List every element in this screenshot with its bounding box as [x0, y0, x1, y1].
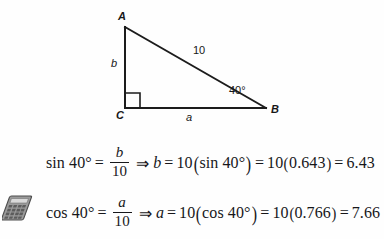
eq-sin-lhs: sin 40° [46, 154, 92, 172]
eq-cos-equals-1: = [97, 204, 106, 222]
equation-sin: sin 40° = b 10 ⇒ b = 10 ( sin 40° ) = 10… [46, 146, 375, 181]
eq-sin-paren-close-1: ) [246, 155, 251, 173]
eq-cos-variable: a [156, 204, 164, 222]
equation-cos: cos 40° = a 10 ⇒ a = 10 ( cos 40° ) = 10… [46, 196, 380, 231]
eq-cos-equals-3: = [260, 204, 269, 222]
vertex-label-b: B [271, 104, 279, 115]
eq-cos-paren-open-1: ( [196, 205, 201, 223]
eq-cos-denominator: 10 [113, 214, 132, 230]
vertex-label-c: C [116, 110, 124, 121]
eq-cos-lhs: cos 40° [46, 204, 94, 222]
eq-sin-paren-open-1: ( [193, 155, 198, 173]
eq-cos-paren-close-1: ) [251, 205, 256, 223]
vertex-label-a: A [118, 11, 126, 22]
eq-sin-result: 6.43 [346, 154, 374, 172]
eq-sin-multiplier-2: 10 [267, 154, 283, 172]
side-label-a: a [186, 112, 192, 123]
eq-cos-ratio-value: 0.766 [294, 204, 331, 222]
eq-cos-numerator: a [115, 195, 129, 211]
eq-sin-paren-close-2: ) [326, 156, 331, 171]
eq-sin-fraction: b 10 [110, 145, 129, 180]
eq-cos-equals-2: = [167, 204, 176, 222]
side-label-hypotenuse: 10 [193, 45, 205, 56]
triangle-figure: A B C b a 10 40° [0, 0, 384, 135]
eq-sin-variable: b [153, 154, 161, 172]
eq-cos-fraction: a 10 [113, 195, 132, 230]
eq-cos-paren-close-2: ) [331, 206, 336, 221]
eq-cos-multiplier-1: 10 [179, 204, 195, 222]
eq-cos-paren-open-2: ( [289, 206, 294, 221]
right-angle-marker-icon [125, 93, 140, 108]
calculator-icon [2, 193, 36, 223]
eq-cos-inner-expression: cos 40° [202, 204, 250, 222]
eq-cos-multiplier-2: 10 [272, 204, 288, 222]
side-label-b: b [111, 58, 117, 69]
eq-cos-result: 7.66 [352, 204, 380, 222]
eq-sin-equals-1: = [95, 154, 104, 172]
eq-sin-paren-open-2: ( [284, 156, 289, 171]
eq-cos-implies-icon: ⇒ [139, 204, 152, 223]
eq-sin-equals-2: = [164, 154, 173, 172]
eq-sin-denominator: 10 [110, 164, 129, 180]
eq-sin-numerator: b [113, 145, 127, 161]
calculator-icon-svg [2, 193, 36, 223]
eq-sin-implies-icon: ⇒ [136, 154, 149, 173]
eq-sin-equals-3: = [255, 154, 264, 172]
worksheet-page: A B C b a 10 40° sin 40° = b 10 ⇒ b = 10… [0, 0, 384, 239]
angle-label-40: 40° [229, 85, 246, 96]
eq-sin-ratio-value: 0.643 [289, 154, 326, 172]
eq-sin-multiplier-1: 10 [176, 154, 192, 172]
eq-sin-equals-4: = [334, 154, 343, 172]
eq-sin-inner-expression: sin 40° [199, 154, 245, 172]
eq-cos-equals-4: = [340, 204, 349, 222]
